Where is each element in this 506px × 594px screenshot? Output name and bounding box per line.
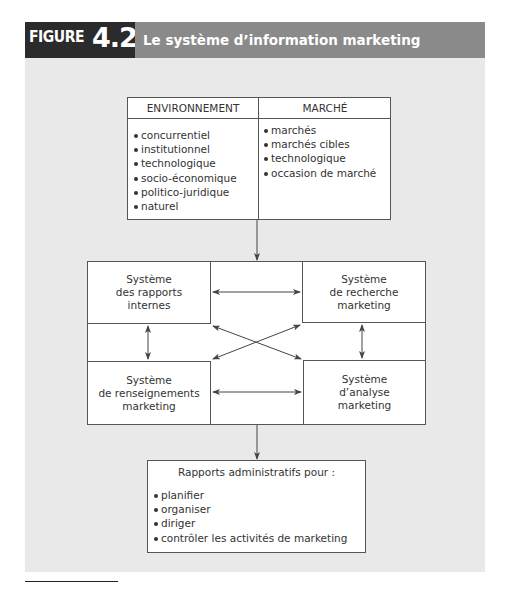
list-item: socio-économique (134, 171, 237, 185)
marketing-intelligence-system-label: Système de renseignements marketing (98, 374, 199, 413)
figure-label-word: FIGURE (29, 27, 84, 45)
marketing-research-system-label: Système de recherche marketing (330, 273, 399, 312)
management-reports-box: Rapports administratifs pour : planifier… (147, 460, 366, 553)
list-item: naturel (134, 199, 237, 213)
footnote-rule (25, 581, 118, 582)
column-divider (258, 98, 259, 219)
management-reports-list: planifier organiser diriger contrôler le… (154, 488, 347, 545)
figure-title: Le système d’information marketing (143, 32, 421, 48)
list-item: diriger (154, 516, 347, 530)
marketing-analysis-system-label: Système d’analyse marketing (338, 373, 392, 412)
list-item: planifier (154, 488, 347, 502)
figure-title-band: Le système d’information marketing (135, 22, 485, 58)
list-item: politico-juridique (134, 185, 237, 199)
list-item: marchés cibles (264, 137, 384, 151)
market-header: MARCHÉ (259, 102, 391, 114)
market-list: marchés marchés cibles technologique occ… (264, 123, 384, 180)
list-item: occasion de marché (264, 166, 384, 180)
internal-reports-system-label: Système des rapports internes (116, 273, 182, 312)
environment-header: ENVIRONNEMENT (128, 102, 258, 114)
list-item: organiser (154, 502, 347, 516)
list-item: concurrentiel (134, 128, 237, 142)
marketing-intelligence-system-box: Système de renseignements marketing (87, 361, 211, 425)
list-item: contrôler les activités de marketing (154, 531, 347, 545)
figure-label: FIGURE 4.2 (25, 22, 135, 58)
list-item: marchés (264, 123, 384, 137)
header-divider (128, 118, 390, 119)
internal-reports-system-box: Système des rapports internes (87, 261, 211, 324)
environment-list: concurrentiel institutionnel technologiq… (134, 128, 237, 213)
figure-label-number: 4.2 (92, 22, 137, 53)
list-item: technologique (134, 156, 237, 170)
marketing-analysis-system-box: Système d’analyse marketing (303, 360, 426, 425)
inputs-table: ENVIRONNEMENT MARCHÉ concurrentiel insti… (127, 97, 391, 220)
list-item: technologique (264, 151, 384, 165)
management-reports-title: Rapports administratifs pour : (148, 466, 365, 478)
list-item: institutionnel (134, 142, 237, 156)
marketing-research-system-box: Système de recherche marketing (302, 261, 426, 323)
